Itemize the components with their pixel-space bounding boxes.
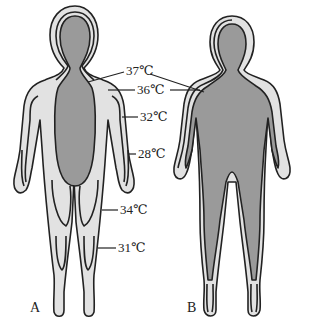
temp-label-28: 28℃ (138, 147, 166, 160)
temp-label-31: 31℃ (118, 241, 146, 254)
temp-label-36: 36℃ (137, 83, 165, 96)
figure-b-body (174, 16, 290, 316)
body-temperature-diagram (0, 0, 309, 328)
temp-label-37: 37℃ (126, 64, 154, 77)
temp-label-32: 32℃ (140, 110, 168, 123)
panel-label-b: B (187, 301, 196, 315)
panel-label-a: A (30, 301, 40, 315)
figure-a-core (55, 16, 96, 186)
temp-label-34: 34℃ (120, 203, 148, 216)
figure-a-body (14, 6, 134, 316)
